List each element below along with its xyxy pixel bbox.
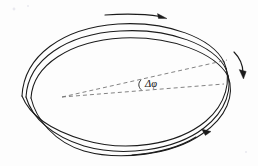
- figure-background: [0, 0, 258, 166]
- figure-canvas: Δφ: [0, 0, 258, 166]
- precession-angle-label: Δφ: [144, 78, 157, 89]
- paper-fleck: [27, 5, 29, 7]
- precessing-orbit-figure: Δφ: [0, 0, 258, 166]
- paper-fleck: [245, 151, 247, 153]
- paper-fleck: [13, 8, 16, 11]
